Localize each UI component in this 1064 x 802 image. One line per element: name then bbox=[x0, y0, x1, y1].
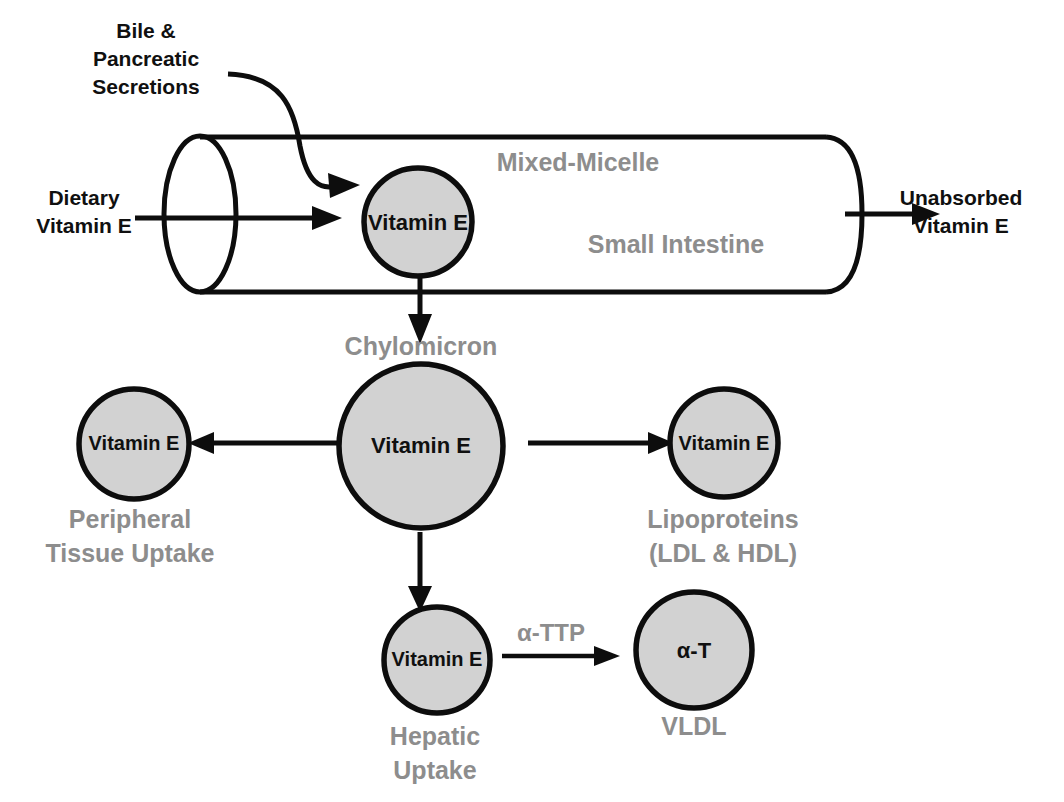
label-lipoproteins: Lipoproteins (LDL & HDL) bbox=[647, 505, 798, 567]
circle-vldl-alpha-t: α-T bbox=[636, 592, 752, 708]
bile-line-1: Bile & bbox=[116, 19, 176, 42]
arrow-chylomicron-to-peripheral bbox=[188, 432, 342, 454]
arrow-hepatic-to-vldl bbox=[502, 646, 620, 666]
peripheral-line-1: Peripheral bbox=[69, 505, 191, 533]
bile-line-2: Pancreatic bbox=[93, 47, 200, 70]
hepatic-line-2: Uptake bbox=[393, 756, 476, 784]
lipoproteins-line-1: Lipoproteins bbox=[647, 505, 798, 533]
chylomicron-circle-label: Vitamin E bbox=[371, 433, 471, 458]
vitamin-e-absorption-diagram: Vitamin E Vitamin E Vitamin E Vitamin E … bbox=[0, 0, 1064, 802]
arrow-chylomicron-to-lipoproteins bbox=[528, 432, 674, 454]
circle-peripheral-vitamin-e: Vitamin E bbox=[79, 389, 189, 499]
circle-hepatic-vitamin-e: Vitamin E bbox=[384, 607, 490, 713]
micelle-circle-label: Vitamin E bbox=[368, 210, 468, 235]
label-chylomicron: Chylomicron bbox=[345, 332, 498, 360]
vldl-circle-label: α-T bbox=[677, 638, 712, 663]
label-bile-pancreatic-secretions: Bile & Pancreatic Secretions bbox=[92, 19, 199, 98]
tube-left-opening-ellipse bbox=[164, 136, 236, 292]
label-alpha-ttp: α-TTP bbox=[517, 619, 585, 646]
diagram-canvas: Vitamin E Vitamin E Vitamin E Vitamin E … bbox=[0, 0, 1064, 802]
label-small-intestine: Small Intestine bbox=[588, 230, 765, 258]
label-hepatic-uptake: Hepatic Uptake bbox=[390, 722, 480, 784]
circle-micelle-vitamin-e: Vitamin E bbox=[364, 168, 472, 276]
unabsorbed-line-2: Vitamin E bbox=[913, 214, 1008, 237]
circle-lipoprotein-vitamin-e: Vitamin E bbox=[670, 389, 778, 497]
hepatic-line-1: Hepatic bbox=[390, 722, 480, 750]
arrow-chylomicron-to-hepatic bbox=[408, 532, 432, 612]
bile-line-3: Secretions bbox=[92, 75, 199, 98]
dietary-line-1: Dietary bbox=[48, 186, 120, 209]
hepatic-circle-label: Vitamin E bbox=[392, 648, 483, 670]
lipoprotein-circle-label: Vitamin E bbox=[679, 432, 770, 454]
label-dietary-vitamin-e: Dietary Vitamin E bbox=[36, 186, 131, 237]
circle-chylomicron-vitamin-e: Vitamin E bbox=[339, 364, 503, 528]
unabsorbed-line-1: Unabsorbed bbox=[900, 186, 1023, 209]
label-peripheral-tissue-uptake: Peripheral Tissue Uptake bbox=[45, 505, 214, 567]
peripheral-circle-label: Vitamin E bbox=[89, 432, 180, 454]
dietary-line-2: Vitamin E bbox=[36, 214, 131, 237]
lipoproteins-line-2: (LDL & HDL) bbox=[649, 539, 797, 567]
peripheral-line-2: Tissue Uptake bbox=[45, 539, 214, 567]
label-vldl: VLDL bbox=[661, 712, 726, 740]
label-mixed-micelle: Mixed-Micelle bbox=[497, 148, 660, 176]
